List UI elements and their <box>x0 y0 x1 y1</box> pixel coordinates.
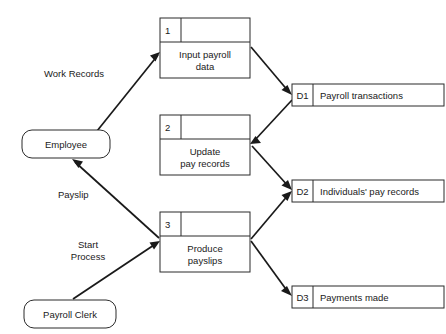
process-3-label-line1: Produce <box>187 243 222 254</box>
data-store-d1[interactable]: D1 Payroll transactions <box>292 84 444 106</box>
flow-label-payslip-group: Payslip <box>56 188 102 201</box>
arrowhead-d1-to-p2 <box>250 136 261 144</box>
external-entity-employee[interactable]: Employee <box>22 130 110 158</box>
flow-work-records <box>97 52 160 131</box>
flow-line-p1-to-d1 <box>251 47 289 92</box>
d1-label: Payroll transactions <box>320 90 403 101</box>
d2-code: D2 <box>296 186 308 197</box>
flow-label-start-process-line1: Start <box>78 239 98 250</box>
process-1-label-line2: data <box>196 61 215 72</box>
flow-label-start-process-line2: Process <box>71 251 106 262</box>
process-2-number: 2 <box>165 122 170 133</box>
flow-line-work-records <box>97 55 158 131</box>
d1-code: D1 <box>296 90 308 101</box>
process-1-number: 1 <box>165 25 170 36</box>
flow-p3-to-d3 <box>251 241 292 296</box>
process-3-label-line2: payslips <box>188 255 223 266</box>
flow-label-work-records-group: Work Records <box>42 67 122 80</box>
process-2-label-line1: Update <box>190 146 221 157</box>
process-box-1[interactable]: 1 Input payroll data <box>160 18 250 78</box>
flow-line-d1-to-p2 <box>254 100 292 141</box>
arrowhead-work-records <box>150 52 160 62</box>
dataflow-diagram: Employee Payroll Clerk 1 Input payroll d… <box>0 0 446 334</box>
flow-line-p3-to-d2 <box>251 194 289 239</box>
arrowhead-p3-to-d3 <box>281 286 292 296</box>
data-store-d2[interactable]: D2 Individuals' pay records <box>292 180 444 202</box>
process-1-label-line1: Input payroll <box>179 49 231 60</box>
flow-line-p3-to-d3 <box>251 241 288 292</box>
data-store-d3[interactable]: D3 Payments made <box>292 286 444 308</box>
d3-label: Payments made <box>320 292 389 303</box>
process-3-number: 3 <box>165 219 170 230</box>
process-2-label-line2: pay records <box>180 158 230 169</box>
process-box-2[interactable]: 2 Update pay records <box>160 115 250 175</box>
dfd-canvas: Employee Payroll Clerk 1 Input payroll d… <box>0 0 446 334</box>
flow-d1-to-p2 <box>250 100 292 144</box>
payroll-clerk-label: Payroll Clerk <box>43 309 97 320</box>
flow-p3-to-d2 <box>251 191 292 239</box>
flow-line-p2-to-d2 <box>252 146 289 187</box>
flow-p2-to-d2 <box>252 146 292 190</box>
employee-label: Employee <box>45 139 87 150</box>
flow-label-work-records: Work Records <box>44 68 104 79</box>
arrowhead-p1-to-d1 <box>282 85 293 95</box>
process-box-3[interactable]: 3 Produce payslips <box>160 212 250 272</box>
external-entity-payroll-clerk[interactable]: Payroll Clerk <box>24 300 116 328</box>
d3-code: D3 <box>296 292 308 303</box>
arrowhead-start-process <box>150 241 161 250</box>
flow-label-start-process-group: Start Process <box>62 238 114 265</box>
d2-label: Individuals' pay records <box>320 186 419 197</box>
flow-label-payslip: Payslip <box>58 189 89 200</box>
arrowhead-p3-to-d2 <box>282 191 293 201</box>
flow-p1-to-d1 <box>251 47 292 95</box>
